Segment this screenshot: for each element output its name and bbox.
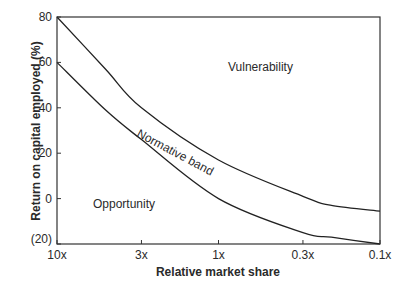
normative-band-label: Normative band xyxy=(135,126,216,178)
x-tick-label: 3x xyxy=(135,248,148,262)
x-tick-label: 1x xyxy=(212,248,225,262)
x-axis-title: Relative market share xyxy=(156,265,280,279)
upper-boundary-curve xyxy=(57,17,380,211)
x-tick-label: 0.1x xyxy=(369,248,392,262)
chart: 806040200(20) 10x3x1x0.3x0.1x Return on … xyxy=(0,0,406,295)
y-tick-label: 0 xyxy=(45,192,52,206)
opportunity-label: Opportunity xyxy=(93,197,155,211)
x-tick-label: 10x xyxy=(47,248,66,262)
vulnerability-label: Vulnerability xyxy=(228,60,293,74)
x-axis-ticks: 10x3x1x0.3x0.1x xyxy=(47,240,391,262)
lower-boundary-curve xyxy=(57,62,380,244)
y-tick-label: 80 xyxy=(39,10,53,24)
y-tick-label: (20) xyxy=(31,232,52,246)
x-tick-label: 0.3x xyxy=(292,248,315,262)
y-axis-title: Return on capital employed (%) xyxy=(29,41,43,220)
